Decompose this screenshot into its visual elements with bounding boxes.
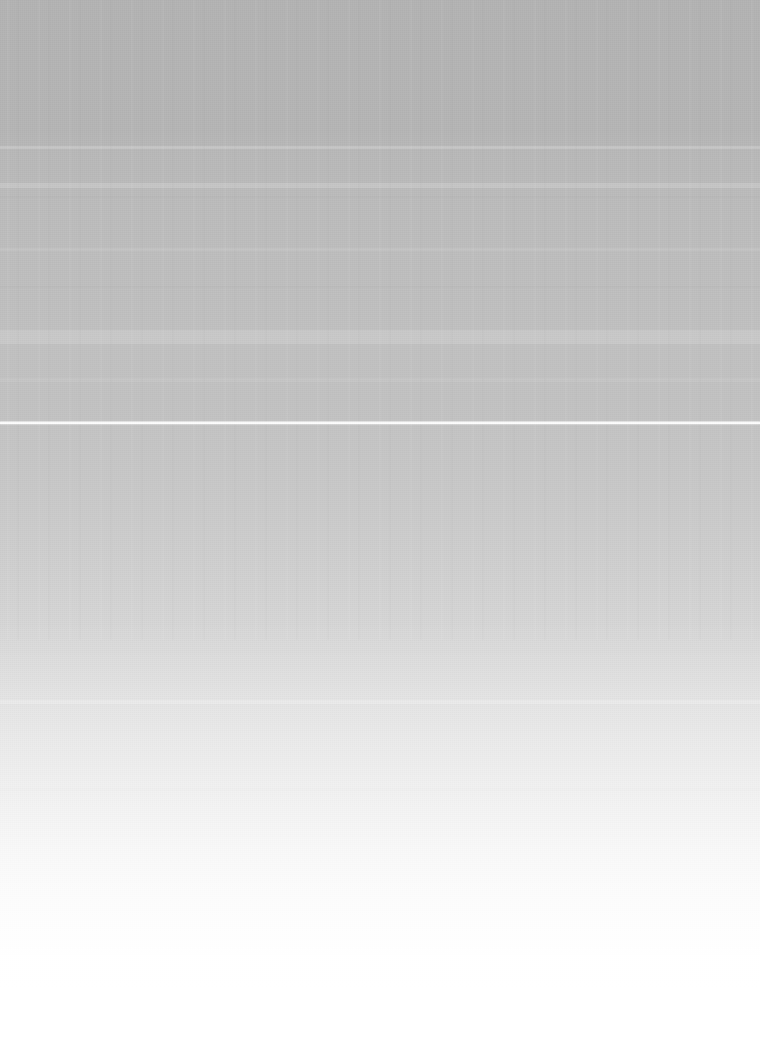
legible-text-content bbox=[0, 0, 1, 1]
screenshot-canvas bbox=[0, 0, 760, 1054]
content-layer bbox=[0, 0, 760, 1054]
